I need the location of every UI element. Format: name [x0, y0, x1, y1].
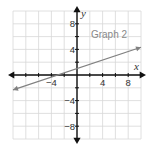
y-axis-arrow-up-icon	[73, 6, 80, 12]
y-tick-label: 4	[70, 44, 75, 55]
x-tick-label: 4	[100, 77, 105, 88]
y-tick-label: −4	[64, 95, 75, 106]
y-tick-label: −8	[64, 121, 75, 132]
y-tick-label: 8	[70, 18, 75, 29]
x-tick-label: 8	[126, 77, 131, 88]
y-axis-label: y	[80, 7, 86, 19]
x-axis-arrow-right-icon	[140, 71, 146, 78]
x-axis-label: x	[133, 60, 139, 72]
series-label: Graph 2	[91, 29, 128, 40]
x-axis-arrow-left-icon	[8, 71, 14, 78]
coordinate-plane: −44884−4−8 Graph 2 x y	[0, 0, 152, 147]
y-axis-arrow-down-icon	[73, 138, 80, 144]
axes	[8, 6, 146, 144]
